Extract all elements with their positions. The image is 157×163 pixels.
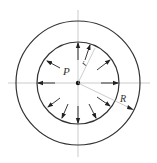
pressure-label: P — [62, 65, 70, 77]
outer-radius-label: R — [119, 93, 126, 104]
pressure-arrow-icon — [89, 104, 96, 118]
pressure-arrow-icon — [97, 60, 110, 70]
pressure-arrow-icon — [85, 45, 90, 60]
pressure-arrow-icon — [62, 104, 68, 118]
pressure-arrow-icon — [97, 97, 110, 106]
outer-radius-arrow-icon — [127, 105, 134, 110]
thick-walled-cylinder-diagram: P r R — [0, 0, 157, 163]
pressure-arrow-icon — [47, 61, 60, 68]
pressure-arrow-icon — [48, 98, 60, 107]
